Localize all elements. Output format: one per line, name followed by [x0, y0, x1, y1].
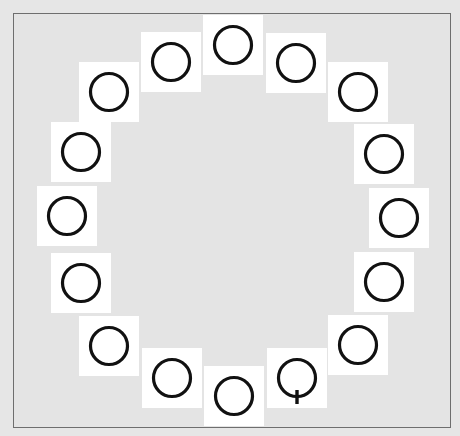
distractor-card-o[interactable] [328, 315, 388, 375]
distractor-card-o[interactable] [37, 186, 97, 246]
circle-o-icon [328, 315, 388, 375]
circle-o-icon [354, 124, 414, 184]
letter-q-icon [267, 348, 327, 408]
distractor-card-o[interactable] [354, 252, 414, 312]
distractor-card-o[interactable] [79, 62, 139, 122]
circle-o-icon [37, 186, 97, 246]
circle-o-icon [142, 348, 202, 408]
distractor-card-o[interactable] [141, 32, 201, 92]
circle-o-icon [203, 15, 263, 75]
distractor-card-o[interactable] [51, 122, 111, 182]
circle-o-icon [51, 253, 111, 313]
distractor-card-o[interactable] [51, 253, 111, 313]
circle-o-icon [354, 252, 414, 312]
distractor-card-o[interactable] [142, 348, 202, 408]
circle-o-icon [328, 62, 388, 122]
circle-o-icon [141, 32, 201, 92]
distractor-card-o[interactable] [369, 188, 429, 248]
circle-o-icon [204, 366, 264, 426]
distractor-card-o[interactable] [204, 366, 264, 426]
distractor-card-o[interactable] [328, 62, 388, 122]
distractor-card-o[interactable] [79, 316, 139, 376]
distractor-card-o[interactable] [266, 33, 326, 93]
circle-o-icon [369, 188, 429, 248]
circle-o-icon [51, 122, 111, 182]
circle-o-icon [79, 316, 139, 376]
circle-o-icon [79, 62, 139, 122]
target-card-q[interactable] [267, 348, 327, 408]
distractor-card-o[interactable] [203, 15, 263, 75]
distractor-card-o[interactable] [354, 124, 414, 184]
circle-o-icon [266, 33, 326, 93]
